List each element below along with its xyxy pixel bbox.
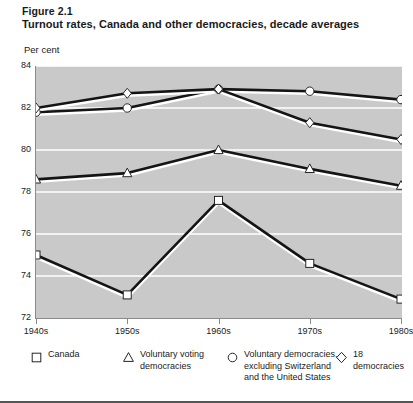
x-tick-mark <box>219 319 220 324</box>
figure-container: Figure 2.1 Turnout rates, Canada and oth… <box>0 0 413 403</box>
legend-item-label: Voluntary voting democracies <box>140 349 204 372</box>
legend-item-circle[interactable]: Voluntary democracies, excluding Switzer… <box>226 349 338 384</box>
x-tick-mark <box>127 319 128 324</box>
legend-item-triangle[interactable]: Voluntary voting democracies <box>122 349 204 372</box>
series-line <box>36 200 401 299</box>
x-tick-label: 1940s <box>24 326 49 336</box>
y-tick-label: 72 <box>5 313 31 322</box>
series-markers-square <box>36 196 402 303</box>
x-tick-mark <box>401 319 402 324</box>
x-tick-mark <box>36 319 37 324</box>
marker-circle <box>123 104 131 112</box>
legend-diamond-icon <box>335 350 348 368</box>
marker-square <box>215 196 223 204</box>
y-axis-tick-labels: 72747678808284 <box>0 0 31 403</box>
x-tick-label: 1970s <box>297 326 322 336</box>
marker-circle <box>306 87 314 95</box>
x-tick-label: 1980s <box>389 326 413 336</box>
series-line-highlight <box>36 202 401 301</box>
y-tick-label: 76 <box>5 229 31 238</box>
legend-item-square[interactable]: Canada <box>30 349 80 368</box>
y-tick-label: 82 <box>5 103 31 112</box>
legend-square-icon <box>30 350 43 368</box>
y-tick-label: 84 <box>5 61 31 70</box>
marker-circle <box>397 95 402 103</box>
series-triangle <box>36 150 401 187</box>
legend-item-label: Canada <box>48 349 80 361</box>
chart-legend: CanadaVoluntary voting democraciesVolunt… <box>30 349 413 397</box>
marker-square <box>397 295 402 303</box>
series-line-highlight <box>36 152 401 188</box>
marker-square <box>36 251 40 259</box>
x-tick-label: 1960s <box>206 326 231 336</box>
marker-square <box>306 259 314 267</box>
x-tick-label: 1950s <box>115 326 140 336</box>
plot-area <box>36 66 402 318</box>
series-square <box>36 200 401 300</box>
series-line <box>36 150 401 186</box>
y-tick-label: 74 <box>5 271 31 280</box>
marker-diamond <box>397 135 402 145</box>
legend-circle-icon <box>226 350 239 368</box>
chart-svg <box>36 66 402 318</box>
legend-item-diamond[interactable]: 18 democracies <box>335 349 413 372</box>
legend-triangle-icon <box>122 350 135 368</box>
x-tick-mark <box>310 319 311 324</box>
series-markers-diamond <box>36 84 402 144</box>
series-markers-triangle <box>36 145 402 189</box>
marker-square <box>123 291 131 299</box>
y-tick-label: 80 <box>5 145 31 154</box>
legend-item-label: Voluntary democracies, excluding Switzer… <box>244 349 338 384</box>
legend-item-label: 18 democracies <box>353 349 413 372</box>
figure-title: Turnout rates, Canada and other democrac… <box>22 18 359 30</box>
y-tick-label: 78 <box>5 187 31 196</box>
